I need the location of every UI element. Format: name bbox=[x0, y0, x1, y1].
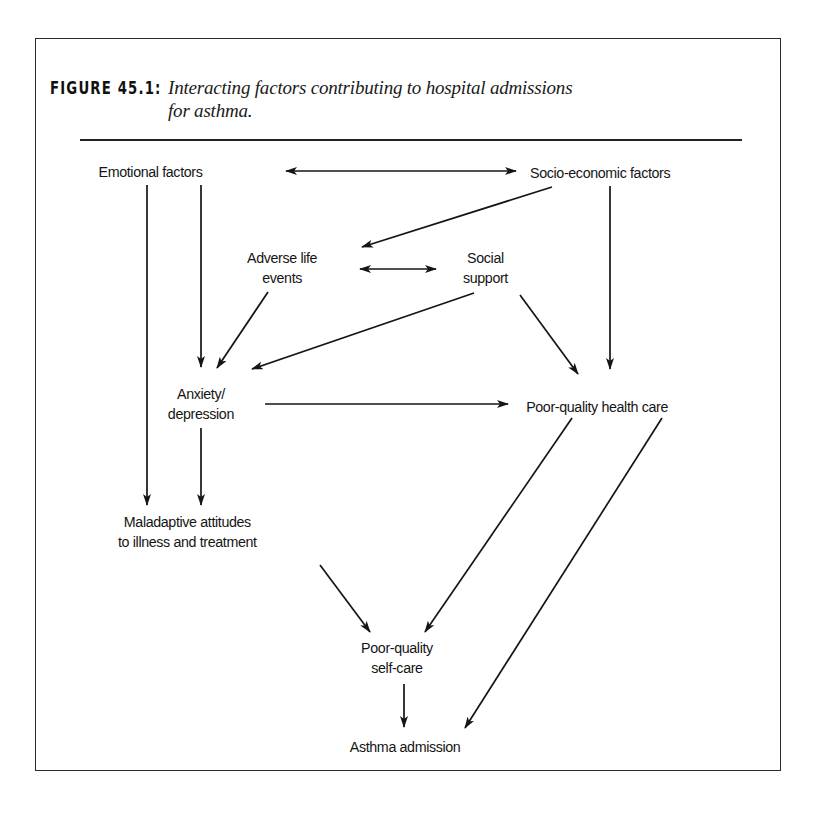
node-poor-quality-health-care: Poor-quality health care bbox=[526, 397, 668, 417]
maladaptive-line-1: Maladaptive attitudes bbox=[118, 512, 257, 532]
social-line-2: support bbox=[463, 268, 508, 288]
node-maladaptive-attitudes: Maladaptive attitudes to illness and tre… bbox=[118, 512, 257, 552]
anxiety-line-2: depression bbox=[168, 404, 234, 424]
selfcare-line-1: Poor-quality bbox=[361, 638, 433, 658]
node-emotional-factors: Emotional factors bbox=[99, 162, 203, 182]
node-social-support: Social support bbox=[463, 248, 508, 288]
node-anxiety-depression: Anxiety/ depression bbox=[168, 384, 234, 424]
edge-maladaptive-selfcare bbox=[320, 565, 370, 632]
social-line-1: Social bbox=[463, 248, 508, 268]
edge-social-anxiety bbox=[252, 293, 474, 369]
edge-healthcare-selfcare bbox=[425, 418, 572, 632]
node-asthma-admission: Asthma admission bbox=[350, 737, 461, 757]
maladaptive-line-2: to illness and treatment bbox=[118, 532, 257, 552]
selfcare-line-2: self-care bbox=[361, 658, 433, 678]
edge-socioeconomic-adverse bbox=[362, 187, 552, 247]
edge-adverse-anxiety bbox=[217, 292, 268, 368]
edge-social-healthcare bbox=[520, 295, 578, 374]
adverse-line-1: Adverse life bbox=[247, 248, 317, 268]
node-poor-quality-self-care: Poor-quality self-care bbox=[361, 638, 433, 678]
edge-healthcare-admission bbox=[465, 418, 662, 728]
node-adverse-life-events: Adverse life events bbox=[247, 248, 317, 288]
anxiety-line-1: Anxiety/ bbox=[168, 384, 234, 404]
diagram-arrows bbox=[0, 0, 816, 824]
node-socioeconomic-factors: Socio-economic factors bbox=[530, 163, 670, 183]
adverse-line-2: events bbox=[247, 268, 317, 288]
